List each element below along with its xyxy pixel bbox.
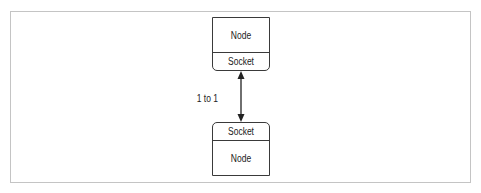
connector-label: 1 to 1	[197, 93, 218, 104]
bottom-node-label: Node	[217, 141, 265, 175]
bottom-socket-label: Socket	[217, 123, 265, 140]
bottom-node-box: Socket Node	[212, 122, 270, 176]
